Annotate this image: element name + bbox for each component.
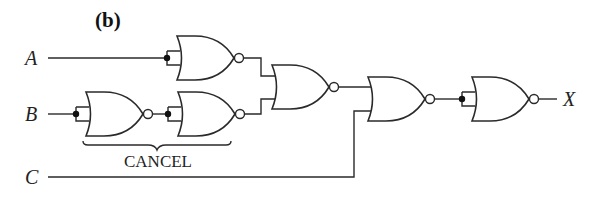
nor-gate-mid bbox=[272, 65, 339, 109]
input-label-c: C bbox=[25, 166, 39, 188]
nor-gate-out bbox=[459, 77, 539, 121]
nor-gate-b1 bbox=[73, 92, 153, 136]
cancel-label: CANCEL bbox=[124, 152, 192, 171]
junction-dot bbox=[165, 111, 171, 117]
junction-dot bbox=[73, 111, 79, 117]
junction-dot bbox=[164, 55, 170, 61]
figure-title: (b) bbox=[95, 8, 121, 32]
nor-gate-b2 bbox=[165, 92, 245, 136]
logic-circuit-diagram: (b) A B C CANCEL bbox=[0, 0, 606, 199]
nor-gate-c bbox=[368, 77, 435, 121]
input-label-b: B bbox=[25, 103, 37, 125]
output-label-x: X bbox=[562, 88, 576, 110]
nor-gate-a bbox=[164, 36, 244, 80]
junction-dot bbox=[459, 96, 465, 102]
wire-a-to-mid bbox=[244, 58, 276, 76]
cancel-brace bbox=[83, 141, 231, 150]
input-label-a: A bbox=[23, 47, 38, 69]
wire-b2-to-mid bbox=[245, 99, 276, 114]
